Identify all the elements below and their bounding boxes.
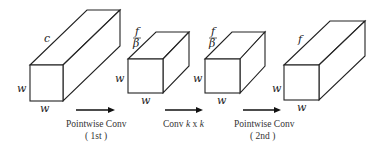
tensor-after-pw1-front-face xyxy=(128,59,163,93)
tensor-after-conv-width-label: w xyxy=(217,94,227,107)
tensor-after-conv-height-label: w xyxy=(193,72,203,85)
tensor-input: c w w xyxy=(17,10,120,115)
tensor-after-pw1-depth-den: β xyxy=(132,37,139,50)
op-pointwise-2-label: Pointwise Conv xyxy=(234,119,295,129)
bottleneck-diagram: c w w Pointwise Conv ( 1st ) f β w w Con… xyxy=(0,0,383,146)
tensor-input-width-label: w xyxy=(40,102,50,115)
arrow-conv-kxk-head xyxy=(196,107,203,113)
tensor-input-height-label: w xyxy=(17,82,27,95)
tensor-after-conv-front-face xyxy=(205,59,240,93)
tensor-output: f w w xyxy=(272,21,365,114)
tensor-after-pw1: f β w w xyxy=(115,25,189,107)
tensor-output-depth-label: f xyxy=(297,33,304,46)
tensor-input-depth-label: c xyxy=(44,32,50,45)
op-pointwise-2-order: ( 2nd ) xyxy=(250,131,275,142)
arrow-pointwise-2-head xyxy=(274,107,281,113)
op-pointwise-1-label: Pointwise Conv xyxy=(66,119,127,129)
tensor-output-width-label: w xyxy=(297,101,307,114)
tensor-after-conv: f β w w xyxy=(193,25,265,107)
tensor-after-pw1-height-label: w xyxy=(115,72,125,85)
op-pointwise-1-order: ( 1st ) xyxy=(85,131,107,142)
tensor-input-front-face xyxy=(30,65,63,101)
tensor-output-front-face xyxy=(284,65,319,100)
op-conv-kxk-label: Conv k x k xyxy=(163,119,205,129)
tensor-after-conv-depth-den: β xyxy=(208,37,215,50)
tensor-after-pw1-width-label: w xyxy=(141,94,151,107)
tensor-output-height-label: w xyxy=(272,82,282,95)
arrow-pointwise-1-head xyxy=(108,107,115,113)
